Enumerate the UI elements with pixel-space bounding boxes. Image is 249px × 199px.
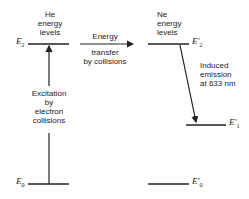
he-title: He energy levels	[30, 10, 70, 37]
transfer-label-top: Energy	[80, 32, 130, 41]
transfer-top-text: Energy	[80, 32, 130, 41]
excitation-line2: by	[19, 98, 79, 107]
ne-title: Ne energy levels	[157, 10, 187, 37]
he-title-line3: levels	[30, 28, 70, 37]
excitation-line1: Excitation	[19, 89, 79, 98]
emission-line1: Induced	[200, 61, 248, 70]
ne-e2-label: E'2	[192, 36, 202, 48]
emission-line3: at 633 nm	[200, 79, 248, 88]
emission-label: Induced emission at 633 nm	[200, 61, 248, 88]
ne-title-line2: energy	[157, 19, 187, 28]
transfer-label-bottom: transfer by collisions	[75, 48, 135, 66]
induced-emission-arrow	[180, 45, 196, 122]
ne-title-line1: Ne	[157, 10, 187, 19]
excitation-line3: electron	[19, 107, 79, 116]
transfer-bottom-line1: transfer	[75, 48, 135, 57]
transfer-bottom-line2: by collisions	[75, 57, 135, 66]
emission-line2: emission	[200, 70, 248, 79]
ne-title-line3: levels	[157, 28, 187, 37]
he-title-line2: energy	[30, 19, 70, 28]
he-title-line1: He	[30, 10, 70, 19]
excitation-line4: collisions	[19, 116, 79, 125]
ne-e1-label: E'1	[229, 117, 239, 129]
excitation-label: Excitation by electron collisions	[19, 89, 79, 125]
he-e2-label: E2	[16, 36, 25, 48]
he-e0-label: E0	[16, 176, 25, 188]
ne-e0-label: E'0	[192, 176, 202, 188]
